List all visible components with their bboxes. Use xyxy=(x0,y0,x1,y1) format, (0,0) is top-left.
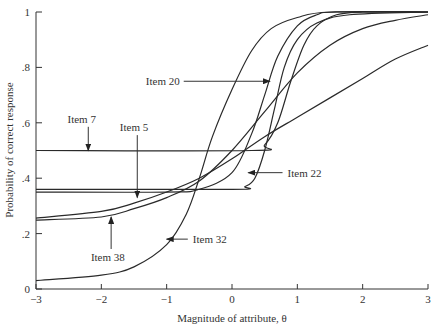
x-tick-label: 3 xyxy=(425,293,431,305)
x-tick-label: −2 xyxy=(95,293,107,305)
curve-item-20 xyxy=(36,12,428,192)
annotations: Item 7Item 5Item 20Item 22Item 38Item 32 xyxy=(68,75,322,263)
curves xyxy=(36,12,428,281)
curve-item-22 xyxy=(36,12,428,189)
annotation-item-20: Item 20 xyxy=(146,75,180,87)
x-tick-label: −1 xyxy=(161,293,173,305)
x-axis-title: Magnitude of attribute, θ xyxy=(177,312,287,324)
annotation-item-22: Item 22 xyxy=(288,167,322,179)
annotation-item-32: Item 32 xyxy=(193,233,227,245)
annotation-item-5: Item 5 xyxy=(120,121,149,133)
curve-item-32 xyxy=(36,12,428,281)
y-tick-label: .6 xyxy=(22,117,31,129)
y-tick-label: 1 xyxy=(25,6,31,18)
annotation-item-38: Item 38 xyxy=(91,251,125,263)
annotation-item-7: Item 7 xyxy=(68,113,97,125)
x-tick-label: 1 xyxy=(295,293,301,305)
y-tick-label: 0 xyxy=(25,283,31,295)
y-tick-label: .8 xyxy=(22,61,31,73)
x-tick-label: 2 xyxy=(360,293,366,305)
y-tick-label: .2 xyxy=(22,228,30,240)
y-axis-title: Probability of correct response xyxy=(3,82,15,217)
item-characteristic-curves-chart: −3−2−101230.2.4.6.81 Item 7Item 5Item 20… xyxy=(0,0,436,329)
x-tick-label: 0 xyxy=(229,293,235,305)
x-tick-label: −3 xyxy=(30,293,42,305)
y-tick-label: .4 xyxy=(22,172,31,184)
